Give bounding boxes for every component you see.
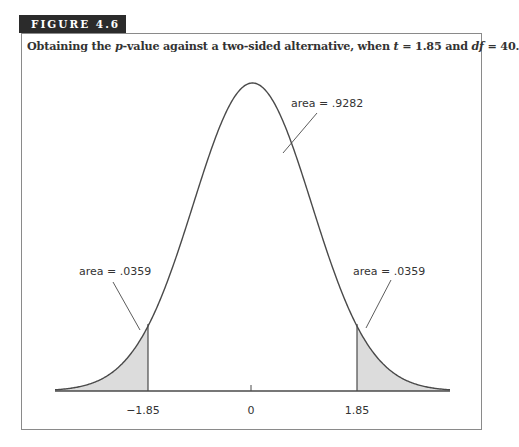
- tick-label-neg-1-85: −1.85: [126, 404, 160, 417]
- tick-label-0: 0: [248, 404, 255, 417]
- left-area-label: area = .0359: [79, 265, 151, 278]
- right-tail-shaded-area: [357, 326, 450, 391]
- center-area-label: area = .9282: [291, 97, 363, 110]
- tick-label-1-85: 1.85: [345, 404, 370, 417]
- density-curve: [55, 83, 450, 390]
- right-area-leader: [366, 280, 391, 328]
- left-area-leader: [113, 282, 140, 330]
- left-tail-shaded-area: [55, 326, 148, 391]
- right-area-label: area = .0359: [353, 265, 425, 278]
